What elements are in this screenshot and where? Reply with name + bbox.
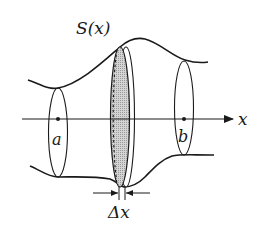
volume-by-slicing-diagram: S(x) x a b Δx xyxy=(0,0,271,242)
point-b xyxy=(182,117,186,121)
label-axis-x: x xyxy=(238,109,248,129)
point-a xyxy=(56,117,60,121)
label-a: a xyxy=(52,130,62,149)
label-b: b xyxy=(178,127,188,146)
label-section-area: S(x) xyxy=(76,18,111,38)
label-delta-x: Δx xyxy=(107,202,130,222)
